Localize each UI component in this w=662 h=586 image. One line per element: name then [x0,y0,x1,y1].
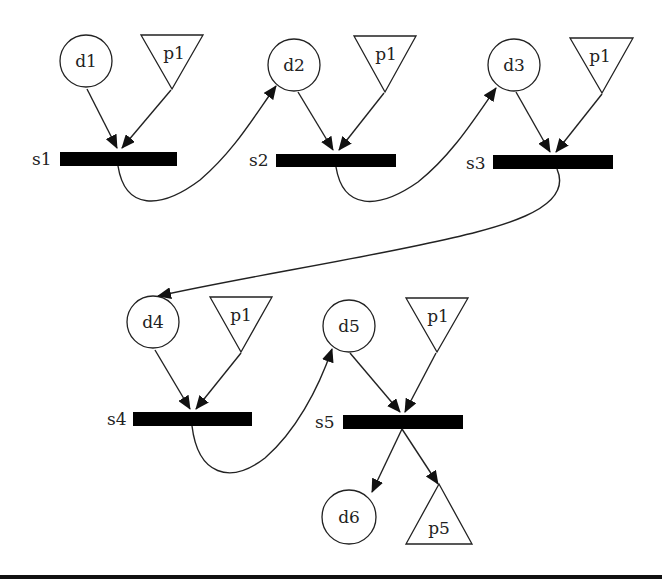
node-label: d5 [338,316,360,336]
edge-d3-s3 [516,92,550,152]
data-node-d1: d1 [60,35,112,87]
node-label: p1 [230,305,252,325]
bottom-rule [0,575,662,579]
edge-s5-p5 [402,429,438,484]
param-node-p5: p5 [406,484,472,544]
node-label: p1 [427,306,449,326]
edge-p1-s5 [405,353,436,412]
node-label: p1 [163,43,185,63]
data-node-d5: d5 [323,300,375,352]
param-node-p1-c: p1 [570,38,633,93]
param-node-p1-b: p1 [354,36,416,92]
edge-d2-s2 [298,92,333,150]
step-s5: s5 [315,412,463,432]
node-label: d1 [75,51,97,71]
step-s4: s4 [107,409,252,429]
edge-s4-d5 [192,349,332,473]
edge-s2-d3 [336,88,496,201]
edge-d4-s4 [155,350,190,409]
node-label: d6 [338,507,360,527]
data-node-d4: d4 [127,296,179,348]
data-node-d3: d3 [488,39,540,91]
step-label: s4 [107,409,127,429]
step-s2: s2 [249,150,396,170]
edge-p1-s3 [556,94,602,152]
node-label: p1 [375,44,397,64]
edge-p1-s2 [339,93,384,150]
param-node-p1-a: p1 [141,35,203,89]
edge-p1-s4 [196,353,241,409]
node-label: d2 [283,55,305,75]
data-node-d6: d6 [322,490,376,544]
param-node-p1-d: p1 [210,297,272,352]
process-diagram: s1 s2 s3 s4 s5 d1 d2 d3 d4 d5 d6 [0,0,662,586]
node-label: p5 [428,518,450,538]
step-label: s3 [466,153,486,173]
edge-p1-s1 [122,90,171,148]
step-s3: s3 [466,153,613,173]
data-node-d2: d2 [268,39,320,91]
node-label: d3 [503,55,525,75]
edge-d1-s1 [87,89,117,148]
edges [87,86,602,492]
step-s1: s1 [32,149,177,169]
edge-d5-s5 [350,353,400,412]
node-label: p1 [589,46,611,66]
step-label: s2 [249,150,269,170]
edge-s5-d6 [372,429,402,492]
param-node-p1-e: p1 [406,298,468,352]
edge-s3-d4 [158,169,560,296]
edge-s1-d2 [118,86,276,201]
node-label: d4 [142,312,164,332]
step-label: s5 [315,412,335,432]
step-label: s1 [32,149,52,169]
